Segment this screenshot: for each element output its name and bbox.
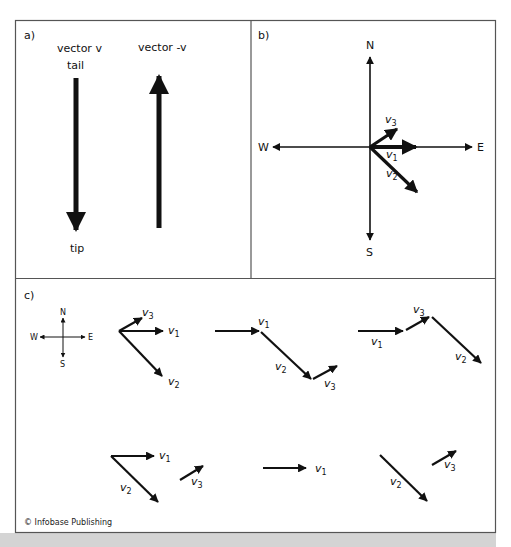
vector-sum-v1-v2-v3: v1 v2 v3 bbox=[215, 315, 337, 392]
mini-compass-n: N bbox=[60, 308, 66, 317]
svg-text:v2: v2 bbox=[120, 481, 132, 496]
svg-text:v1: v1 bbox=[258, 315, 270, 330]
svg-text:v1: v1 bbox=[315, 462, 327, 477]
panel-b-label: b) bbox=[258, 29, 269, 42]
vector-v1-label: v1 bbox=[386, 148, 398, 163]
svg-text:v1: v1 bbox=[159, 449, 171, 464]
panel-c: c) N S E W v3 v1 v2 v1 v2 v3 bbox=[24, 289, 481, 527]
compass-w-label: W bbox=[258, 141, 269, 154]
svg-text:v2: v2 bbox=[168, 375, 180, 390]
mini-compass-w: W bbox=[30, 333, 38, 342]
vector-v-label: vector v bbox=[57, 42, 102, 55]
vector-v3-arrow bbox=[370, 129, 397, 147]
copyright-notice: © Infobase Publishing bbox=[24, 518, 112, 527]
vector-set-common-origin: v3 v1 v2 bbox=[119, 306, 180, 390]
svg-text:v2: v2 bbox=[455, 350, 467, 365]
mini-compass-s: S bbox=[60, 360, 65, 369]
panel-c-label: c) bbox=[24, 289, 34, 302]
vector-sum-v1-v3-v2: v1 v3 v2 bbox=[358, 303, 481, 365]
svg-text:v3: v3 bbox=[142, 306, 154, 321]
svg-text:v3: v3 bbox=[324, 377, 336, 392]
vector-neg-v-label: vector -v bbox=[138, 41, 187, 54]
vector-set-partial: v1 v2 v3 bbox=[111, 449, 203, 502]
compass-e-label: E bbox=[477, 141, 484, 154]
vector-set-separate: v1 v2 v3 bbox=[263, 451, 456, 501]
compass-n-label: N bbox=[366, 39, 374, 52]
vector-diagram: a) vector v vector -v tail tip b) N S E … bbox=[0, 0, 511, 547]
svg-text:v2: v2 bbox=[275, 360, 287, 375]
outer-frame bbox=[16, 21, 496, 533]
panel-a-label: a) bbox=[24, 29, 35, 42]
svg-text:v1: v1 bbox=[371, 335, 383, 350]
vector-v3-label: v3 bbox=[385, 113, 397, 128]
compass-s-label: S bbox=[366, 246, 373, 259]
mini-compass-e: E bbox=[88, 333, 93, 342]
mini-compass: N S E W bbox=[30, 308, 93, 369]
panel-b: b) N S E W v3 v1 v2 bbox=[258, 29, 484, 259]
tail-label: tail bbox=[67, 59, 84, 72]
svg-text:v3: v3 bbox=[444, 458, 456, 473]
svg-text:v2: v2 bbox=[390, 475, 402, 490]
panel-a: a) vector v vector -v tail tip bbox=[24, 29, 187, 255]
svg-text:v3: v3 bbox=[191, 475, 203, 490]
svg-text:v3: v3 bbox=[413, 303, 425, 318]
tip-label: tip bbox=[70, 242, 84, 255]
svg-text:v1: v1 bbox=[168, 324, 180, 339]
vector-v2-label: v2 bbox=[386, 167, 398, 182]
